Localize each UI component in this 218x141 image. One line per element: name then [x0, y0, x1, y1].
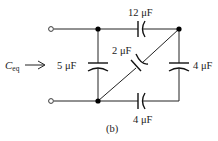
label-2uF: 2 μF	[112, 45, 132, 56]
node-bottom-left	[95, 98, 100, 103]
node-top-right	[176, 26, 181, 31]
ceq-arrow	[25, 61, 45, 69]
capacitor-2uF-diagonal	[98, 29, 179, 101]
circuit-diagram: Ceq 5 μF 12 μF 2 μF 4 μF 4 μF (b)	[0, 0, 218, 141]
capacitor-4uF-right	[169, 29, 189, 101]
ceq-label: Ceq	[5, 59, 20, 73]
terminal-top	[49, 27, 54, 32]
terminal-bottom	[49, 99, 54, 104]
label-12uF: 12 μF	[128, 7, 153, 18]
figure-label: (b)	[106, 123, 119, 135]
capacitor-5uF	[88, 29, 108, 101]
label-4uF-bottom: 4 μF	[133, 114, 153, 125]
label-5uF: 5 μF	[57, 60, 77, 71]
node-top-left	[95, 26, 100, 31]
label-4uF-right: 4 μF	[193, 60, 213, 71]
